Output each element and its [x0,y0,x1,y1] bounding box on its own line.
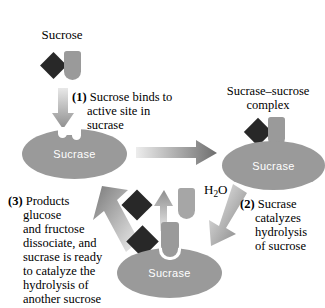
step-1-number: (1) [72,90,87,104]
step-3-line-1: Products [26,194,70,208]
step-1-text: (1) Sucrose binds to active site in sucr… [72,90,202,132]
step-3-line-5: sucrase is ready [8,250,123,264]
step-3-line-8: another sucrose [8,292,123,306]
enzyme-label-complex: Sucrase [222,160,325,172]
complex-label-line-1: Sucrase–sucrose [214,84,322,98]
complex-label-line-2: complex [214,98,322,112]
step-2-line-1: Sucrase [258,197,297,211]
step-1-line-2: active site in [72,104,202,118]
step-1-transition-arrow [136,140,218,166]
step-3-text: (3) Products glucose and fructose dissoc… [8,194,123,306]
step-2-line-3: hydrolysis [240,225,325,239]
step-3-line-6: to catalyze the [8,264,123,278]
step-3-line-4: dissociate, and [8,236,123,250]
step-3-number: (3) [8,194,23,208]
step-2-number: (2) [240,197,255,211]
step-2-line-2: catalyzes [240,211,325,225]
fructose-block-icon [64,51,81,80]
active-site-notch-right [72,127,81,140]
step-2-text: (2) Sucrase catalyzes hydrolysis of sucr… [240,197,325,253]
complex-label: Sucrase–sucrose complex [214,84,322,112]
enzyme-catalysis-diagram: Sucrose (1) Sucrose binds to active site… [0,0,325,308]
step-2-line-4: of sucrose [240,239,325,253]
released-fructose-block-icon [178,188,195,219]
enzyme-label-free: Sucrase [22,148,127,160]
step-1-line-1: Sucrose binds to [90,90,173,104]
substrate-label: Sucrose [18,28,106,43]
glucose-diamond-icon [40,52,67,79]
step-3-line-2: glucose [8,208,123,222]
enzyme-label-bottom: Sucrase [117,267,222,279]
step-3-line-3: and fructose [8,222,123,236]
step-3-line-7: hydrolysis of [8,278,123,292]
